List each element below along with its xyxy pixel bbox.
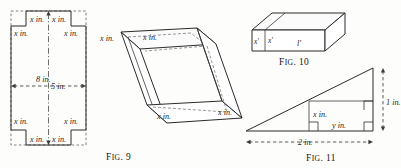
fig9-flat-sheet: x in. x in. x in. x in. 8 in. 5 in. x in…	[11, 11, 86, 145]
fig9-caption: FIG. 9	[106, 152, 131, 162]
fig9box-label-front-edge: x in.	[156, 112, 171, 121]
fig9box-label-left-flap: x in.	[99, 34, 114, 43]
fig9-label-corner-bottom-right: x in.	[51, 135, 66, 144]
fig11-height-arrow-top	[381, 68, 385, 73]
fig9-label-side-bottom-left: x in.	[13, 117, 28, 126]
figure-sheet: x in. x in. x in. x in. 8 in. 5 in. x in…	[0, 0, 401, 168]
fig11-triangle: x in. y in. 1 in. 2 in.	[246, 68, 401, 147]
fig10-label-front-height: x'	[267, 36, 273, 45]
figures-canvas: x in. x in. x in. x in. 8 in. 5 in. x in…	[0, 0, 401, 168]
fig9-label-corner-top-left: x in.	[29, 15, 44, 24]
fig10-block: x' x' l'	[252, 13, 345, 51]
fig9box-label-top-edge: x in.	[142, 33, 157, 42]
fig9-label-corner-top-right: x in.	[51, 15, 66, 24]
fig9-axis-arrow-bottom	[46, 141, 50, 145]
fig9box-label-right-edge: x in.	[217, 108, 232, 117]
fig9-width-arrow-left	[11, 84, 16, 88]
fig9-label-side-top-right: x in.	[63, 29, 78, 38]
fig11-right-angle-inner-foot	[309, 122, 318, 131]
fig11-label-inner-horizontal: y in.	[331, 121, 346, 130]
fig11-base-arrow-right	[368, 140, 373, 144]
fig10-label-length: l'	[297, 39, 301, 48]
fig9-label-side-top-left: x in.	[13, 29, 28, 38]
fig9-label-width: 5 in.	[51, 82, 66, 91]
fig11-triangle-outline	[246, 68, 373, 131]
fig9-label-corner-bottom-left: x in.	[29, 135, 44, 144]
fig9-width-arrow-right	[81, 84, 86, 88]
fig11-height-arrow-bottom	[381, 126, 385, 131]
fig11-base-arrow-left	[246, 140, 251, 144]
fig10-label-left-height: x'	[253, 37, 259, 46]
fig11-label-base: 2 in.	[298, 138, 313, 147]
fig11-right-angle-lower-right	[364, 122, 373, 131]
fig11-caption: FIG. 11	[306, 153, 336, 163]
fig11-label-inner-vertical: x in.	[312, 110, 327, 119]
fig10-caption: FIG. 10	[279, 57, 309, 67]
fig9-axis-arrow-top	[46, 11, 50, 15]
fig9-open-box: x in. x in. x in. x in.	[99, 28, 242, 123]
fig11-right-angle-upper-right	[364, 101, 373, 110]
fig9-label-side-bottom-right: x in.	[63, 117, 78, 126]
fig11-label-height: 1 in.	[386, 98, 401, 107]
fig10-front-face	[252, 30, 325, 51]
fig9-label-height: 8 in.	[36, 75, 51, 84]
